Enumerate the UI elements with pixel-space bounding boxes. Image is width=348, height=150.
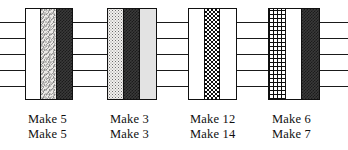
block-3-column-3-plain-white — [220, 9, 236, 99]
block-1-column-3-dark-checkered — [57, 9, 72, 99]
block-1 — [25, 8, 73, 100]
block-4-caption-line-1: Make 6 — [272, 112, 311, 127]
block-3-column-1-plain-white — [189, 9, 205, 99]
block-2-column-3-light-gray-solid — [140, 9, 156, 99]
block-1-column-1-plain-white — [26, 9, 41, 99]
block-2-caption-line-2: Make 3 — [110, 127, 149, 142]
block-4-caption: Make 6Make 7 — [272, 112, 311, 142]
block-2 — [107, 8, 157, 100]
block-3 — [188, 8, 237, 100]
block-3-caption-line-2: Make 14 — [190, 127, 236, 142]
block-1-caption-line-1: Make 5 — [28, 112, 67, 127]
block-1-column-2-light-mottled — [41, 9, 56, 99]
figure-canvas: Make 5Make 5Make 3Make 3Make 12Make 14Ma… — [0, 0, 348, 150]
block-2-column-1-light-stippled — [108, 9, 124, 99]
block-1-caption: Make 5Make 5 — [28, 112, 67, 142]
block-1-caption-line-2: Make 5 — [28, 127, 67, 142]
block-3-caption-line-1: Make 12 — [190, 112, 236, 127]
block-2-caption: Make 3Make 3 — [110, 112, 149, 142]
block-3-column-2-high-contrast-checkered — [205, 9, 221, 99]
block-4-column-3-dark-checkered — [302, 9, 319, 99]
block-3-caption: Make 12Make 14 — [190, 112, 236, 142]
block-4-caption-line-2: Make 7 — [272, 127, 311, 142]
block-4 — [268, 8, 320, 100]
block-2-column-2-dark-checkered — [124, 9, 140, 99]
block-4-column-1-black-grid-crosshatch — [269, 9, 286, 99]
block-2-caption-line-1: Make 3 — [110, 112, 149, 127]
block-4-column-2-plain-white — [286, 9, 303, 99]
